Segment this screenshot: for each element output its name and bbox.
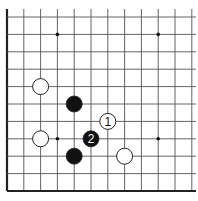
white-stone-1: 1 bbox=[100, 113, 116, 129]
black-stone bbox=[66, 148, 82, 164]
star-point-icon bbox=[156, 137, 160, 141]
star-point-icon bbox=[56, 137, 60, 141]
white-stone bbox=[33, 79, 49, 95]
white-stone bbox=[117, 148, 133, 164]
stone-move-number: 2 bbox=[88, 132, 95, 146]
grid-lines bbox=[7, 9, 196, 191]
star-point-icon bbox=[56, 33, 60, 37]
stone-move-number: 1 bbox=[104, 115, 111, 129]
black-stone-2: 2 bbox=[83, 131, 99, 147]
white-stone bbox=[33, 131, 49, 147]
go-board: 12 bbox=[0, 0, 198, 201]
black-stone bbox=[66, 96, 82, 112]
star-point-icon bbox=[156, 33, 160, 37]
